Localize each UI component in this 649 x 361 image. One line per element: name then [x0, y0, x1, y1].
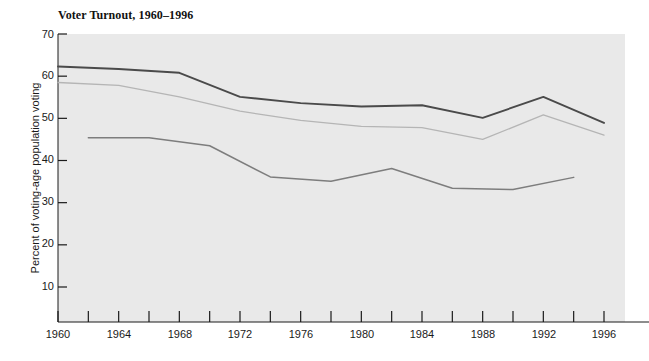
y-axis-title: Percent of voting-age population voting — [29, 48, 41, 308]
x-tick-label-1960: 1960 — [35, 328, 81, 340]
y-tick-label-40: 40 — [28, 153, 54, 165]
x-tick-label-1972: 1972 — [217, 328, 263, 340]
x-tick-label-1964: 1964 — [96, 328, 142, 340]
page-title: Voter Turnout, 1960–1996 — [58, 8, 193, 23]
x-tick-label-1996: 1996 — [581, 328, 627, 340]
y-tick-label-30: 30 — [28, 195, 54, 207]
series-label-for-president: For President — [262, 83, 328, 95]
plot-canvas — [0, 0, 649, 361]
x-tick-label-1968: 1968 — [157, 328, 203, 340]
plot-background — [58, 34, 625, 322]
series-line-house-off-year — [88, 138, 573, 190]
series-label-house-offyear: House, Off–year — [232, 180, 312, 192]
x-tick-label-1988: 1988 — [460, 328, 506, 340]
x-tick-label-1984: 1984 — [399, 328, 445, 340]
chart-figure: Voter Turnout, 1960–1996 Percent of voti… — [0, 0, 649, 361]
axis-ticks — [58, 34, 604, 322]
x-tick-label-1992: 1992 — [521, 328, 567, 340]
y-tick-label-60: 60 — [28, 69, 54, 81]
y-tick-label-20: 20 — [28, 237, 54, 249]
axis-lines — [58, 34, 649, 322]
y-tick-label-10: 10 — [28, 280, 54, 292]
x-tick-label-1976: 1976 — [278, 328, 324, 340]
y-tick-label-70: 70 — [28, 28, 54, 40]
x-tick-label-1980: 1980 — [339, 328, 385, 340]
series-label-house-presidential: House, Presidential Year — [238, 128, 358, 140]
y-tick-label-50: 50 — [28, 111, 54, 123]
series-line-for-president — [58, 66, 604, 123]
